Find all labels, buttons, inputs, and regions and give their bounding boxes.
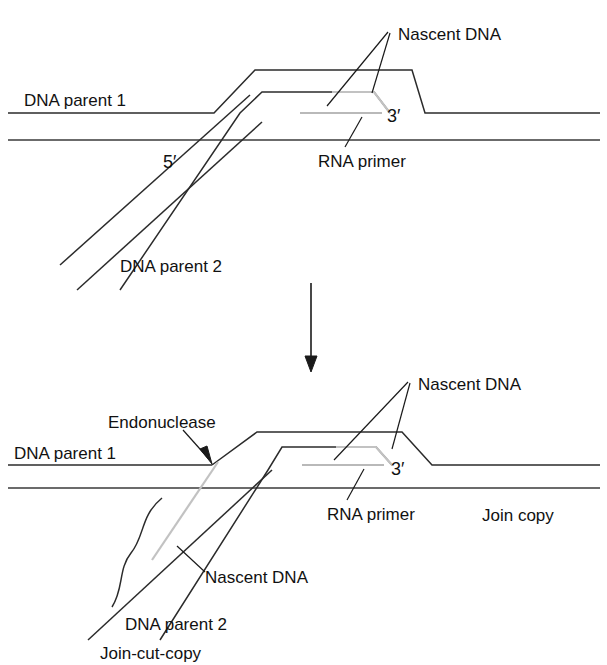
bottom-rna-primer-label: RNA primer: [327, 505, 415, 524]
bottom-dna-parent-1-label: DNA parent 1: [14, 444, 116, 463]
top-rna-primer-leader: [345, 117, 362, 147]
bottom-join-copy-label: Join copy: [482, 506, 554, 525]
bottom-three-prime-label: 3′: [391, 459, 405, 479]
bottom-rna-primer-leader: [347, 469, 364, 500]
top-rna-primer-label: RNA primer: [318, 152, 406, 171]
bottom-inner-displaced-strand: [160, 447, 392, 640]
bottom-endonuclease-arrowhead: [200, 446, 212, 464]
diagram-canvas: Nascent DNA DNA parent 1 5′ 3′ RNA prime…: [0, 0, 607, 665]
top-nascent-leader-2: [372, 33, 390, 93]
bottom-displaced-wavy-strand: [112, 498, 162, 607]
top-panel: Nascent DNA DNA parent 1 5′ 3′ RNA prime…: [8, 25, 600, 290]
bottom-nascent-lower-leader: [177, 546, 205, 572]
bottom-nascent-leader-1: [334, 382, 408, 460]
top-three-prime-label: 3′: [387, 106, 401, 126]
bottom-nascent-leader-2: [392, 383, 410, 449]
bottom-panel: Nascent DNA Endonuclease DNA parent 1 3′…: [8, 375, 600, 663]
bottom-nascent-dna-label: Nascent DNA: [418, 375, 522, 394]
top-nascent-gray-strand: [332, 92, 390, 113]
top-five-prime-label: 5′: [163, 152, 177, 172]
recombination-diagram-figure: Nascent DNA DNA parent 1 5′ 3′ RNA prime…: [0, 0, 607, 665]
bottom-dna-parent-2-label: DNA parent 2: [125, 615, 227, 634]
bottom-nascent-gray-arm: [152, 462, 218, 560]
bottom-nascent-dna-lower-label: Nascent DNA: [205, 568, 309, 587]
flow-arrow-group: [305, 283, 317, 372]
bottom-parent1-upper-strand-right: [212, 432, 600, 465]
bottom-endonuclease-label: Endonuclease: [108, 413, 216, 432]
downward-process-arrow-head: [305, 356, 317, 372]
top-nascent-dna-label: Nascent DNA: [398, 25, 502, 44]
top-dna-parent-2-label: DNA parent 2: [120, 257, 222, 276]
bottom-join-cut-copy-label: Join-cut-copy: [100, 644, 202, 663]
top-dna-parent-1-label: DNA parent 1: [24, 91, 126, 110]
